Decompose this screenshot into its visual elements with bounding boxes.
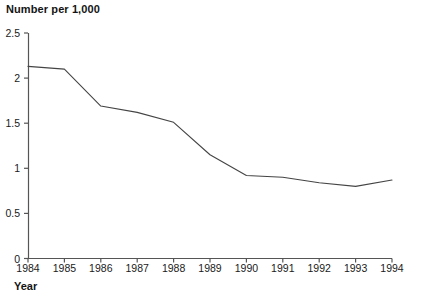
x-tick-label: 1988 [162, 262, 185, 274]
x-tick-label: 1990 [235, 262, 258, 274]
x-tick-label: 1989 [198, 262, 221, 274]
y-tick-label: 2.5 [0, 27, 20, 39]
x-tick-label: 1994 [380, 262, 403, 274]
y-tick-label: 1.5 [0, 117, 20, 129]
y-tick-label: 2 [0, 72, 20, 84]
x-tick-label: 1992 [308, 262, 331, 274]
plot-area [0, 0, 447, 302]
y-tick-marks [24, 33, 28, 259]
x-tick-label: 1986 [89, 262, 112, 274]
data-series-line [28, 66, 392, 186]
y-tick-label: 1 [0, 162, 20, 174]
x-tick-label: 1993 [344, 262, 367, 274]
x-tick-label: 1991 [271, 262, 294, 274]
x-axis-label: Year [14, 280, 37, 292]
x-tick-label: 1987 [126, 262, 149, 274]
x-tick-label: 1985 [53, 262, 76, 274]
x-tick-label: 1984 [16, 262, 39, 274]
line-chart: Number per 1,000 00.511.522.5 1984198519… [0, 0, 447, 302]
axes [28, 33, 392, 259]
y-tick-label: 0.5 [0, 207, 20, 219]
